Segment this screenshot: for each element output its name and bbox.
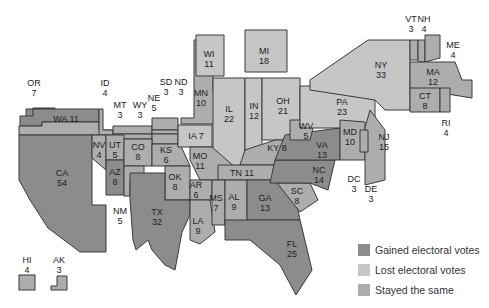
svg-text:10: 10: [196, 98, 206, 108]
svg-text:54: 54: [57, 178, 67, 188]
svg-text:OR: OR: [27, 78, 41, 88]
svg-text:4: 4: [24, 265, 29, 275]
svg-text:DE: DE: [365, 184, 378, 194]
svg-text:NC: NC: [313, 165, 326, 175]
svg-text:6: 6: [193, 190, 198, 200]
svg-text:NM: NM: [113, 206, 127, 216]
svg-text:CA: CA: [56, 168, 69, 178]
state-HI: [19, 275, 35, 290]
svg-text:CO: CO: [131, 142, 145, 152]
svg-text:WA 11: WA 11: [53, 114, 79, 124]
svg-text:ND: ND: [175, 77, 188, 87]
svg-text:23: 23: [337, 107, 347, 117]
svg-text:13: 13: [260, 203, 270, 213]
legend-gained: Gained electoral votes: [358, 240, 479, 260]
svg-text:AZ: AZ: [109, 167, 121, 177]
svg-text:ME: ME: [446, 40, 460, 50]
svg-text:SD: SD: [160, 77, 173, 87]
svg-text:5: 5: [303, 131, 308, 141]
svg-text:VT: VT: [405, 14, 417, 24]
svg-text:MN: MN: [194, 88, 208, 98]
svg-text:33: 33: [376, 70, 386, 80]
svg-text:AL: AL: [228, 192, 239, 202]
svg-text:MI: MI: [259, 46, 269, 56]
svg-text:UT: UT: [109, 140, 121, 150]
svg-text:WV: WV: [299, 121, 314, 131]
svg-text:3: 3: [408, 24, 413, 34]
swatch-lost: [358, 264, 370, 276]
svg-text:VA: VA: [316, 140, 327, 150]
svg-text:13: 13: [317, 150, 327, 160]
svg-text:NV: NV: [93, 140, 106, 150]
svg-text:DC: DC: [348, 174, 361, 184]
svg-text:3: 3: [163, 87, 168, 97]
svg-text:15: 15: [379, 142, 389, 152]
svg-text:4: 4: [96, 150, 101, 160]
svg-text:NJ: NJ: [379, 132, 390, 142]
svg-text:14: 14: [314, 175, 324, 185]
svg-text:NE: NE: [148, 93, 161, 103]
svg-text:OH: OH: [276, 96, 290, 106]
svg-text:8: 8: [172, 182, 177, 192]
svg-text:12: 12: [249, 111, 259, 121]
state-AK: [51, 276, 67, 290]
svg-text:11: 11: [195, 161, 204, 171]
svg-text:TX: TX: [151, 207, 163, 217]
swatch-gained: [358, 244, 370, 256]
svg-text:MD: MD: [343, 127, 357, 137]
svg-text:IN: IN: [250, 101, 259, 111]
svg-text:8: 8: [422, 101, 427, 111]
state-ID: [99, 109, 113, 135]
svg-text:AR: AR: [190, 180, 203, 190]
svg-text:8: 8: [294, 196, 299, 206]
svg-text:18: 18: [259, 56, 269, 66]
svg-text:MT: MT: [114, 100, 127, 110]
svg-text:9: 9: [231, 202, 236, 212]
svg-text:AK: AK: [53, 255, 65, 265]
svg-text:22: 22: [224, 114, 234, 124]
svg-text:MA: MA: [426, 67, 440, 77]
svg-text:TN 11: TN 11: [230, 168, 254, 178]
svg-text:5: 5: [151, 103, 156, 113]
svg-text:4: 4: [443, 128, 448, 138]
state-ME: [425, 35, 440, 62]
state-NH: [418, 40, 425, 62]
svg-text:5: 5: [117, 216, 122, 226]
svg-text:ID: ID: [101, 78, 111, 88]
svg-text:10: 10: [345, 137, 355, 147]
state-RI: [440, 88, 450, 112]
svg-text:NY: NY: [375, 60, 388, 70]
svg-text:NH: NH: [418, 14, 431, 24]
state-ND: [152, 134, 178, 144]
svg-text:HI: HI: [23, 255, 32, 265]
state-SD: [152, 130, 178, 134]
svg-text:LA: LA: [192, 216, 203, 226]
svg-text:OK: OK: [168, 172, 181, 182]
svg-text:4: 4: [421, 24, 426, 34]
svg-text:FL: FL: [287, 239, 298, 249]
svg-text:IA 7: IA 7: [188, 131, 204, 141]
svg-text:12: 12: [428, 77, 438, 87]
legend-lost: Lost electoral votes: [358, 260, 479, 280]
svg-text:WY: WY: [133, 100, 148, 110]
svg-text:WI: WI: [204, 49, 215, 59]
svg-text:25: 25: [287, 249, 297, 259]
svg-text:4: 4: [102, 88, 107, 98]
svg-text:MO: MO: [193, 151, 208, 161]
svg-text:32: 32: [152, 217, 162, 227]
svg-text:RI: RI: [442, 118, 451, 128]
state-MT: [113, 126, 152, 134]
state-NE: [152, 118, 178, 130]
svg-text:MS: MS: [209, 193, 223, 203]
svg-text:3: 3: [56, 265, 61, 275]
svg-text:9: 9: [195, 226, 200, 236]
state-DE: [360, 130, 368, 152]
svg-text:CT: CT: [419, 91, 431, 101]
state-VT: [410, 40, 418, 60]
svg-text:5: 5: [112, 150, 117, 160]
svg-text:11: 11: [204, 59, 213, 69]
svg-text:8: 8: [135, 152, 140, 162]
svg-text:21: 21: [278, 106, 288, 116]
svg-text:3: 3: [137, 110, 142, 120]
svg-text:KY 8: KY 8: [267, 143, 286, 153]
